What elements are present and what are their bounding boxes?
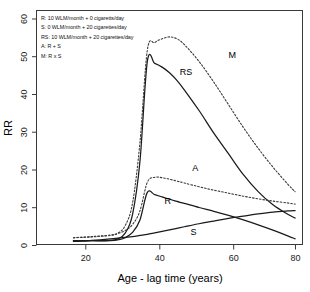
y-axis-title: RR bbox=[2, 120, 14, 136]
x-tick-label-60: 60 bbox=[229, 253, 239, 263]
series-label-m: M bbox=[229, 50, 237, 60]
legend-entry-4: M: R x S bbox=[41, 53, 62, 59]
y-tick-label-30: 30 bbox=[19, 127, 29, 137]
y-tick-label-0: 0 bbox=[19, 243, 29, 248]
y-tick-label-50: 50 bbox=[19, 52, 29, 62]
x-tick-label-40: 40 bbox=[155, 253, 165, 263]
chart-figure: 60 50 40 30 20 10 0 RR 20 40 60 80 Age -… bbox=[0, 0, 310, 292]
y-tick-label-60: 60 bbox=[19, 14, 29, 24]
legend-entry-0: R: 10 WLM/month + 0 cigaretts/day bbox=[41, 15, 124, 21]
legend-entry-3: A: R + S bbox=[41, 43, 61, 49]
y-tick-label-40: 40 bbox=[19, 89, 29, 99]
x-axis-title: Age - lag time (years) bbox=[117, 272, 222, 284]
series-label-a: A bbox=[192, 163, 198, 173]
series-label-r: R bbox=[164, 196, 171, 206]
x-tick-label-20: 20 bbox=[81, 253, 91, 263]
series-label-s: S bbox=[191, 227, 197, 237]
legend-entry-2: RS: 10 WLM/month + 20 cigarettes/day bbox=[41, 34, 134, 40]
legend-entry-1: S: 0 WLM/month + 20 cigarettes/day bbox=[41, 24, 127, 30]
x-tick-label-80: 80 bbox=[290, 253, 300, 263]
chart-plot-area: 60 50 40 30 20 10 0 RR 20 40 60 80 Age -… bbox=[0, 0, 310, 292]
y-tick-label-10: 10 bbox=[19, 203, 29, 213]
series-label-rs: RS bbox=[180, 67, 193, 77]
y-tick-label-20: 20 bbox=[19, 165, 29, 175]
